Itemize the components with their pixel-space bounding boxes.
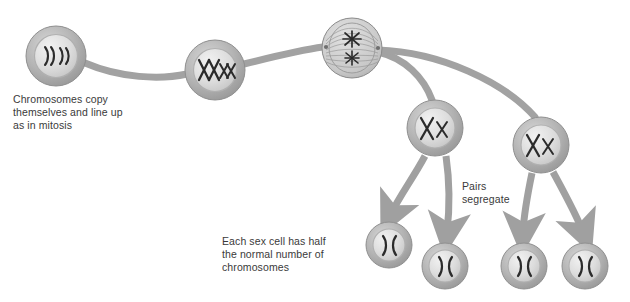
arrow-daughter-left-to-gamete-1 [391,156,425,214]
cell-daughter-left [407,100,463,156]
meiosis-diagram: Chromosomes copy themselves and line up … [0,0,630,302]
connector-parent-to-replicated [85,63,187,77]
connector-replicated-to-spindle [244,47,323,64]
chromosome-cluster-upper [343,31,361,47]
cell-spindle [322,18,382,78]
cell-gamete-3 [501,243,547,289]
cell-gamete-2 [422,243,468,289]
cell-gamete-4 [562,243,608,289]
arrow-daughter-left-to-gamete-2 [446,156,449,232]
caption-sex-cell-half: Each sex cell has half the normal number… [222,235,362,275]
arrow-daughter-right-to-gamete-4 [553,172,583,232]
cell-gamete-1 [366,222,412,268]
cell-daughter-right [513,117,569,173]
caption-pairs-segregate: Pairs segregate [462,180,542,206]
cell-replicated [185,40,245,100]
cell-parent [26,26,86,86]
chromosome-cluster-lower [345,51,359,65]
caption-chromosomes-copy: Chromosomes copy themselves and line up … [13,93,163,133]
